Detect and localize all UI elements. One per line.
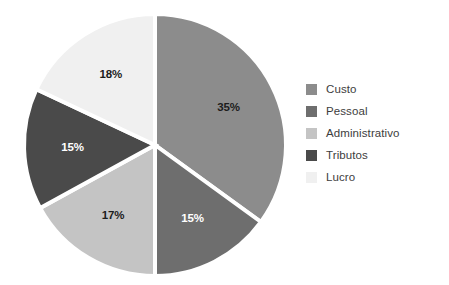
legend-item-label: Lucro (326, 171, 355, 183)
legend-swatch-icon-custo (306, 84, 317, 95)
legend-item-lucro[interactable]: Lucro (306, 166, 446, 188)
legend-swatch-icon-administrativo (306, 128, 317, 139)
legend-item-administrativo[interactable]: Administrativo (306, 122, 446, 144)
legend-item-label: Pessoal (326, 105, 368, 117)
legend-swatch-icon-pessoal (306, 106, 317, 117)
pie-slice-label-pessoal: 15% (181, 212, 203, 224)
legend-item-tributos[interactable]: Tributos (306, 144, 446, 166)
legend-swatch-icon-lucro (306, 172, 317, 183)
legend-swatch-icon-tributos (306, 150, 317, 161)
pie-slice-label-lucro: 18% (100, 68, 122, 80)
legend-item-label: Administrativo (326, 127, 400, 139)
legend-item-label: Tributos (326, 149, 368, 161)
pie-chart-svg: 35%15%17%15%18% (0, 0, 292, 285)
pie-slice-label-tributos: 15% (61, 141, 83, 153)
legend-item-pessoal[interactable]: Pessoal (306, 100, 446, 122)
pie-chart-page: 35%15%17%15%18% CustoPessoalAdministrati… (0, 0, 449, 285)
legend-item-label: Custo (326, 83, 357, 95)
chart-legend: CustoPessoalAdministrativoTributosLucro (306, 78, 446, 188)
pie-chart: 35%15%17%15%18% (0, 0, 292, 285)
pie-slice-label-custo: 35% (217, 101, 239, 113)
pie-slice-label-administrativo: 17% (102, 209, 124, 221)
legend-item-custo[interactable]: Custo (306, 78, 446, 100)
